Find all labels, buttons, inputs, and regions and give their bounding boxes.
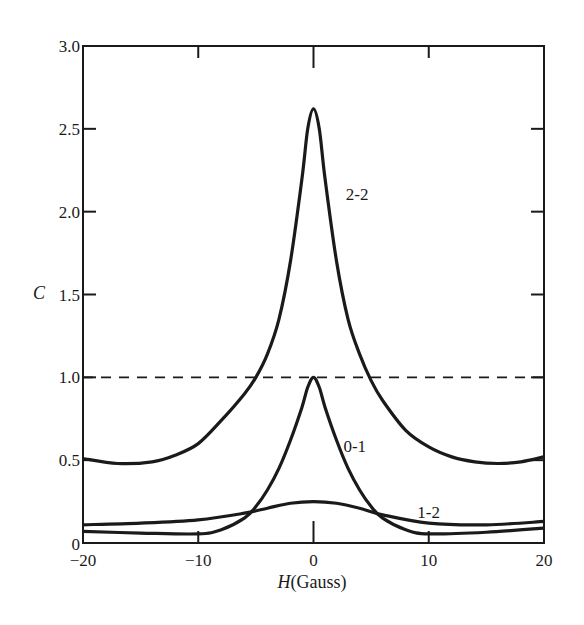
curve-label-1-2: 1-2 bbox=[417, 503, 440, 522]
plot-border bbox=[83, 46, 544, 543]
y-tick-label: 2.5 bbox=[59, 120, 80, 139]
axis-ticks bbox=[83, 46, 544, 543]
x-axis-label: H(Gauss) bbox=[277, 572, 347, 593]
plot-frame bbox=[83, 46, 544, 543]
x-tick-label: 10 bbox=[420, 551, 437, 570]
curve-label-0-1: 0-1 bbox=[343, 437, 366, 456]
curve-label-2-2: 2-2 bbox=[346, 185, 369, 204]
y-tick-label: 0 bbox=[72, 535, 81, 554]
x-tick-label: 0 bbox=[309, 551, 318, 570]
y-tick-label: 1.0 bbox=[59, 368, 80, 387]
tick-labels: −20−100102000.51.01.52.02.53.0 bbox=[59, 37, 553, 570]
curves bbox=[83, 109, 544, 534]
curve-2-2 bbox=[83, 109, 544, 464]
x-axis-label-var: H bbox=[277, 572, 292, 592]
y-axis-label: C bbox=[33, 283, 46, 303]
y-tick-label: 0.5 bbox=[59, 451, 80, 470]
curve-0-1 bbox=[83, 377, 544, 534]
y-tick-label: 3.0 bbox=[59, 37, 80, 56]
y-tick-label: 2.0 bbox=[59, 203, 80, 222]
y-tick-label: 1.5 bbox=[59, 286, 80, 305]
x-axis-label-unit: (Gauss) bbox=[291, 572, 347, 593]
x-tick-label: −10 bbox=[185, 551, 212, 570]
x-tick-label: 20 bbox=[536, 551, 553, 570]
chart: −20−100102000.51.01.52.02.53.0 2-20-11-2… bbox=[0, 0, 584, 625]
